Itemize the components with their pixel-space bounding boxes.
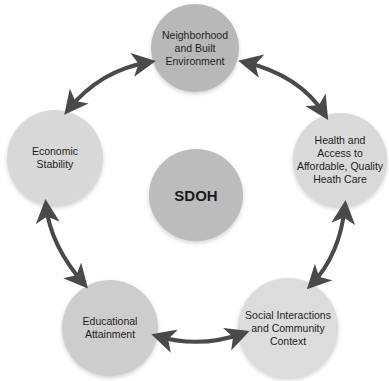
- node-educational-attainment: Educational Attainment: [62, 280, 158, 376]
- node-label: Educational Attainment: [83, 315, 138, 341]
- bidirectional-arrow-icon: [68, 62, 150, 110]
- node-label: Economic Stability: [32, 145, 78, 171]
- bidirectional-arrow-icon: [46, 205, 84, 284]
- node-label: Health and Access to Affordable, Quality…: [297, 134, 383, 186]
- node-label: Social Interactions and Community Contex…: [245, 309, 331, 348]
- node-neighborhood-built-environment: Neighborhood and Built Environment: [151, 4, 239, 92]
- node-sdoh-center: SDOH: [149, 149, 243, 241]
- center-label: SDOH: [174, 189, 217, 202]
- node-social-community-context: Social Interactions and Community Contex…: [238, 278, 338, 378]
- bidirectional-arrow-icon: [311, 206, 345, 285]
- node-label: Neighborhood and Built Environment: [162, 29, 228, 68]
- bidirectional-arrow-icon: [157, 333, 244, 342]
- bidirectional-arrow-icon: [244, 62, 325, 115]
- node-health-care-access: Health and Access to Affordable, Quality…: [293, 113, 387, 207]
- node-economic-stability: Economic Stability: [7, 110, 103, 206]
